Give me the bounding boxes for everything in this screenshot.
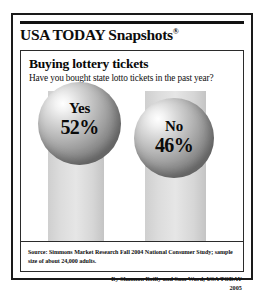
snapshot-frame: USA TODAY Snapshots® Buying lottery tick… bbox=[11, 13, 253, 280]
data-sphere-no: No 46% bbox=[134, 98, 214, 178]
data-sphere-yes-answer: Yes bbox=[38, 101, 121, 116]
data-sphere-no-label: No 46% bbox=[134, 119, 214, 155]
data-sphere-yes-label: Yes 52% bbox=[38, 101, 121, 137]
chart-content-box: Buying lottery tickets Have you bought s… bbox=[20, 50, 244, 272]
byline-credit: By Shannon Reilly and Sam Ward, USA TODA… bbox=[111, 275, 242, 282]
data-sphere-no-percent: 46% bbox=[134, 135, 214, 155]
page-title: Buying lottery tickets bbox=[29, 56, 148, 72]
registered-trademark-icon: ® bbox=[173, 27, 179, 36]
masthead: USA TODAY Snapshots® bbox=[20, 21, 244, 44]
masthead-rule bbox=[20, 21, 244, 24]
byline-year: 2005 bbox=[42, 283, 242, 292]
masthead-brand-title: USA TODAY Snapshots® bbox=[20, 26, 244, 44]
masthead-brand-text: USA TODAY Snapshots bbox=[20, 26, 173, 43]
chart-question-subtitle: Have you bought state lotto tickets in t… bbox=[29, 73, 213, 83]
byline: By Shannon Reilly and Sam Ward, USA TODA… bbox=[42, 274, 242, 293]
source-strip: Source: Simmons Market Research Fall 200… bbox=[21, 241, 243, 271]
source-note: Source: Simmons Market Research Fall 200… bbox=[28, 248, 236, 266]
data-sphere-yes: Yes 52% bbox=[38, 82, 121, 165]
data-sphere-yes-percent: 52% bbox=[38, 117, 121, 137]
data-sphere-no-answer: No bbox=[134, 119, 214, 134]
